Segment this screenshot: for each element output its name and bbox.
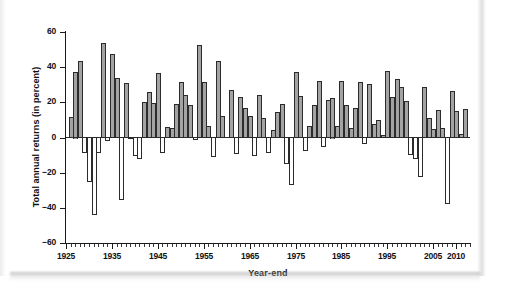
x-axis-minor-tick	[254, 244, 255, 247]
y-axis-tick	[60, 32, 66, 33]
bar	[229, 90, 234, 138]
page-right-edge	[477, 0, 486, 276]
y-axis-tick	[60, 138, 66, 139]
x-axis-major-tick	[66, 244, 67, 249]
bar	[298, 96, 303, 139]
x-axis-major-tick	[250, 244, 251, 249]
y-axis-tick	[60, 208, 66, 209]
x-axis-minor-tick	[231, 244, 232, 247]
x-axis-minor-tick	[424, 244, 425, 247]
bar	[289, 138, 294, 186]
x-axis-minor-tick	[461, 244, 462, 247]
x-axis-minor-tick	[378, 244, 379, 247]
x-axis-minor-tick	[259, 244, 260, 247]
x-axis-minor-tick	[447, 244, 448, 247]
x-axis-minor-tick	[332, 244, 333, 247]
x-axis-tick-label: 1925	[46, 251, 86, 261]
x-axis-tick-label: 1945	[138, 251, 178, 261]
x-axis-tick-label: 1975	[276, 251, 316, 261]
x-axis-minor-tick	[103, 244, 104, 247]
x-axis-minor-tick	[452, 244, 453, 247]
x-axis-minor-tick	[282, 244, 283, 247]
page-left-edge	[0, 0, 6, 276]
x-axis-minor-tick	[360, 244, 361, 247]
page-bottom-shadow	[10, 272, 480, 281]
bar	[463, 109, 468, 138]
bar	[303, 138, 308, 152]
bar	[160, 138, 165, 153]
x-axis-minor-tick	[240, 244, 241, 247]
bar	[321, 138, 326, 148]
x-axis-major-tick	[456, 244, 457, 249]
x-axis-minor-tick	[374, 244, 375, 247]
x-axis-minor-tick	[415, 244, 416, 247]
x-axis-tick-label: 1965	[230, 251, 270, 261]
x-axis-minor-tick	[410, 244, 411, 247]
x-axis-minor-tick	[121, 244, 122, 247]
x-axis-minor-tick	[208, 244, 209, 247]
x-axis-minor-tick	[94, 244, 95, 247]
x-axis-major-tick	[387, 244, 388, 249]
bar	[266, 138, 271, 154]
x-axis-minor-tick	[172, 244, 173, 247]
x-axis-minor-tick	[268, 244, 269, 247]
x-axis-minor-tick	[364, 244, 365, 247]
bar	[96, 138, 101, 153]
bar	[358, 82, 363, 138]
bar	[404, 101, 409, 139]
y-axis-tick-label: −60	[20, 238, 56, 247]
x-axis-tick-label: 1935	[92, 251, 132, 261]
y-axis-tick	[60, 67, 66, 68]
bar	[418, 138, 423, 178]
bar	[188, 105, 193, 138]
bar	[211, 138, 216, 158]
x-axis-minor-tick	[75, 244, 76, 247]
bar	[137, 138, 142, 159]
x-axis-minor-tick	[84, 244, 85, 247]
x-axis-minor-tick	[181, 244, 182, 247]
x-axis-minor-tick	[355, 244, 356, 247]
x-axis-major-tick	[296, 244, 297, 249]
x-axis-major-tick	[158, 244, 159, 249]
y-axis-title: Total annual returns (in percent)	[31, 37, 41, 237]
x-axis-tick-label: 2010	[436, 251, 476, 261]
zero-baseline	[66, 137, 470, 138]
x-axis-minor-tick	[162, 244, 163, 247]
x-axis-tick-label: 1995	[367, 251, 407, 261]
x-axis-minor-tick	[319, 244, 320, 247]
x-axis-minor-tick	[406, 244, 407, 247]
x-axis-minor-tick	[351, 244, 352, 247]
x-axis-tick-label: 1985	[321, 251, 361, 261]
x-axis-minor-tick	[98, 244, 99, 247]
x-axis-minor-tick	[139, 244, 140, 247]
x-axis-minor-tick	[199, 244, 200, 247]
bar	[248, 116, 253, 139]
scanned-page: 6040200−20−40−60 19251935194519551965197…	[0, 0, 506, 300]
bar	[220, 116, 225, 138]
x-axis-major-tick	[112, 244, 113, 249]
x-axis-minor-tick	[71, 244, 72, 247]
x-axis-minor-tick	[291, 244, 292, 247]
x-axis-minor-tick	[185, 244, 186, 247]
x-axis-minor-tick	[263, 244, 264, 247]
bar	[101, 43, 106, 139]
x-axis-minor-tick	[328, 244, 329, 247]
x-axis-minor-tick	[401, 244, 402, 247]
x-axis-minor-tick	[346, 244, 347, 247]
x-axis-minor-tick	[245, 244, 246, 247]
x-axis-tick-label: 1955	[184, 251, 224, 261]
bar	[261, 118, 266, 139]
x-axis-minor-tick	[305, 244, 306, 247]
y-axis-tick-label: 60	[20, 27, 56, 36]
bar	[124, 83, 129, 139]
x-axis-minor-tick	[153, 244, 154, 247]
x-axis-minor-tick	[195, 244, 196, 247]
x-axis-minor-tick	[420, 244, 421, 247]
x-axis-minor-tick	[442, 244, 443, 247]
x-axis-minor-tick	[429, 244, 430, 247]
x-axis-minor-tick	[300, 244, 301, 247]
bar	[156, 73, 161, 138]
x-axis-minor-tick	[465, 244, 466, 247]
x-axis-minor-tick	[107, 244, 108, 247]
bar	[252, 138, 257, 157]
